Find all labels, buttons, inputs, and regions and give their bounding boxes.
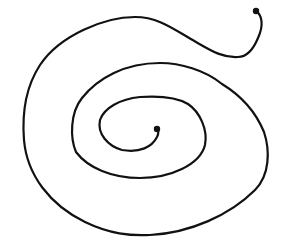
spiral-diagram <box>0 0 298 251</box>
start-dot <box>253 8 259 14</box>
end-dot <box>154 126 160 132</box>
spiral-path <box>23 11 267 235</box>
